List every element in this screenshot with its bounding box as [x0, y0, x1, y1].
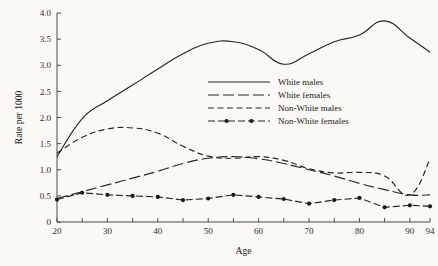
series-data-point	[282, 197, 286, 201]
series-data-point	[357, 196, 361, 200]
series-line-1	[57, 157, 430, 199]
x-tick-label: 80	[355, 226, 365, 236]
chart-plot-area: 00.51.01.52.02.53.03.54.0 Rate per 1000 …	[0, 0, 438, 266]
y-tick-label: 4.0	[40, 8, 52, 18]
series-data-point	[156, 195, 160, 199]
y-axis-title: Rate per 1000	[14, 91, 24, 145]
legend-label-0: White males	[278, 77, 324, 87]
legend-label-3: Non-White females	[278, 116, 349, 126]
y-tick-label: 0.5	[40, 191, 52, 201]
series-data-point	[257, 195, 261, 199]
series-data-point	[105, 193, 109, 197]
series-data-point	[408, 203, 412, 207]
x-axis-group: 203040506070809094 Age	[53, 218, 436, 256]
y-tick-label: 1.5	[40, 139, 52, 149]
chart-legend: White malesWhite femalesNon-White malesN…	[208, 77, 349, 126]
y-axis-ticks: 00.51.01.52.02.53.03.54.0	[40, 8, 61, 227]
x-tick-label: 60	[254, 226, 264, 236]
series-data-point	[181, 198, 185, 202]
series-line-3	[57, 193, 430, 208]
series-data-point	[80, 191, 84, 195]
legend-label-1: White females	[278, 90, 331, 100]
x-axis-title: Age	[236, 246, 252, 256]
legend-marker-3	[249, 119, 253, 123]
x-tick-label: 30	[103, 226, 113, 236]
series-line-0	[57, 21, 430, 157]
y-tick-label: 2.5	[40, 87, 52, 97]
series-data-point	[55, 197, 59, 201]
x-tick-label: 50	[204, 226, 214, 236]
series-data-point	[231, 193, 235, 197]
y-axis-group: 00.51.01.52.02.53.03.54.0 Rate per 1000	[14, 8, 61, 227]
series-data-point	[332, 198, 336, 202]
series-data-point	[206, 196, 210, 200]
legend-marker-3	[225, 119, 229, 123]
series-data-point	[383, 205, 387, 209]
x-axis-ticks: 203040506070809094	[53, 218, 436, 236]
chart-figure: 00.51.01.52.02.53.03.54.0 Rate per 1000 …	[0, 0, 438, 266]
y-tick-label: 1.0	[40, 165, 52, 175]
x-tick-label: 70	[305, 226, 315, 236]
series-data-point	[428, 204, 432, 208]
x-tick-label: 20	[53, 226, 63, 236]
y-tick-label: 3.5	[40, 34, 52, 44]
y-tick-label: 0	[47, 217, 52, 227]
y-tick-label: 2.0	[40, 113, 52, 123]
y-tick-label: 3.0	[40, 60, 52, 70]
series-data-point	[307, 202, 311, 206]
series-data-point	[131, 194, 135, 198]
x-tick-label: 94	[426, 226, 436, 236]
legend-label-2: Non-White males	[278, 103, 342, 113]
chart-series-group	[55, 21, 432, 210]
x-tick-label: 90	[405, 226, 415, 236]
series-line-2	[57, 127, 430, 195]
x-tick-label: 40	[153, 226, 163, 236]
